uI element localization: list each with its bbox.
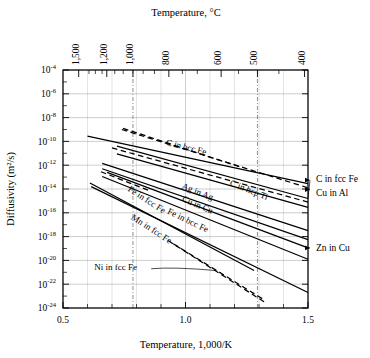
y-axis-tick-label: 10-8 <box>41 111 56 123</box>
x-axis-tick-label: 0.5 <box>57 315 69 325</box>
top-axis-tick-label-600: 600 <box>213 51 223 66</box>
y-axis-tick-labels: 10-410-610-810-1010-1210-1410-1610-1810-… <box>38 63 57 313</box>
chart-canvas: Temperature, °C 1,5001,2001,000800600500… <box>0 0 370 358</box>
y-axis-tick-label: 10-16 <box>38 206 57 218</box>
y-axis-title-group: Diffusivity (m²/s) <box>5 152 17 226</box>
series-right-label: Zn in Cu <box>316 243 350 253</box>
series-right-label: C in fcc Fe <box>316 174 358 184</box>
y-axis-tick-label: 10-24 <box>38 301 57 313</box>
top-axis-title: Temperature, °C <box>151 7 220 18</box>
chart-title-group: Temperature, °C <box>151 7 220 18</box>
x-axis-tick-label: 1.5 <box>302 315 314 325</box>
y-axis-tick-label: 10-20 <box>38 254 56 266</box>
series-inline-label: Mn in fcc Fe <box>129 212 173 246</box>
series-inline-label: C in hcp Ti <box>229 178 271 203</box>
y-axis-tick-label: 10-6 <box>41 87 57 99</box>
series-line <box>117 146 308 198</box>
series-inline-label: Ni in fcc Fe <box>94 262 137 272</box>
top-axis-tick-label-1000: 1,000 <box>125 43 135 65</box>
y-axis-tick-label: 10-10 <box>38 135 56 147</box>
x-axis-tick-label: 1.0 <box>180 315 192 325</box>
top-axis-tick-label-400: 400 <box>297 51 307 66</box>
y-axis-tick-label: 10-22 <box>38 277 56 289</box>
y-axis-tick-label: 10-18 <box>38 230 56 242</box>
x-axis-tick-labels: 0.51.01.5 <box>57 315 314 325</box>
y-axis-tick-label: 10-14 <box>38 182 57 194</box>
series-inline-labels: C in bcc FeC in hcp TiAg in AgCu in CuFe… <box>94 137 270 272</box>
label-leader-lines <box>151 178 310 271</box>
top-axis-tick-label-1200: 1,200 <box>99 43 109 65</box>
diffusivity-chart-figure: Temperature, °C 1,5001,2001,000800600500… <box>0 0 370 358</box>
y-axis-tick-label: 10-12 <box>38 158 56 170</box>
top-axis-tick-label-500: 500 <box>249 51 259 66</box>
y-axis-tick-label: 10-4 <box>41 63 57 75</box>
series-right-label: Cu in Al <box>316 188 349 198</box>
series-line <box>101 172 151 192</box>
top-axis-tick-labels: 1,5001,2001,000800600500400 <box>71 43 307 65</box>
x-axis-title: Temperature, 1,000/K <box>140 339 233 350</box>
top-axis-tick-label-1500: 1,500 <box>71 43 81 65</box>
top-axis-tick-label-800: 800 <box>161 51 171 66</box>
x-axis-title-group: Temperature, 1,000/K <box>140 339 233 350</box>
y-axis-title: Diffusivity (m²/s) <box>5 152 17 226</box>
series-right-labels: C in fcc FeCu in AlZn in Cu <box>316 174 358 254</box>
